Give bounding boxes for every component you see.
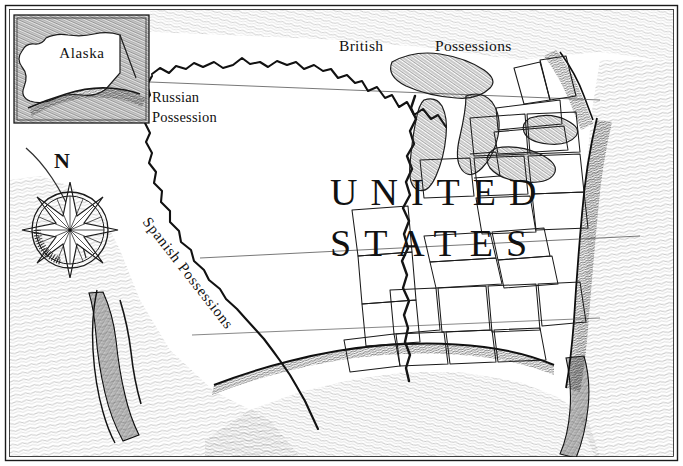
alaska-inset: Alaska	[14, 15, 149, 123]
alaska-inset-label: Alaska	[59, 45, 104, 61]
label-british-possessions-word2: Possessions	[435, 37, 512, 54]
map-title-line2: STATES	[330, 222, 540, 264]
historical-map-illustration: N Alaska Russian Possession British Poss…	[0, 0, 683, 466]
label-russian-possession-line2: Possession	[152, 109, 217, 125]
map-title-line1: UNITED	[330, 171, 549, 213]
compass-north-label: N	[54, 148, 70, 173]
label-british-possessions-word1: British	[339, 37, 383, 54]
label-russian-possession-line1: Russian	[152, 89, 200, 105]
map-canvas: N Alaska Russian Possession British Poss…	[0, 0, 683, 466]
compass-center-dot	[68, 228, 71, 231]
